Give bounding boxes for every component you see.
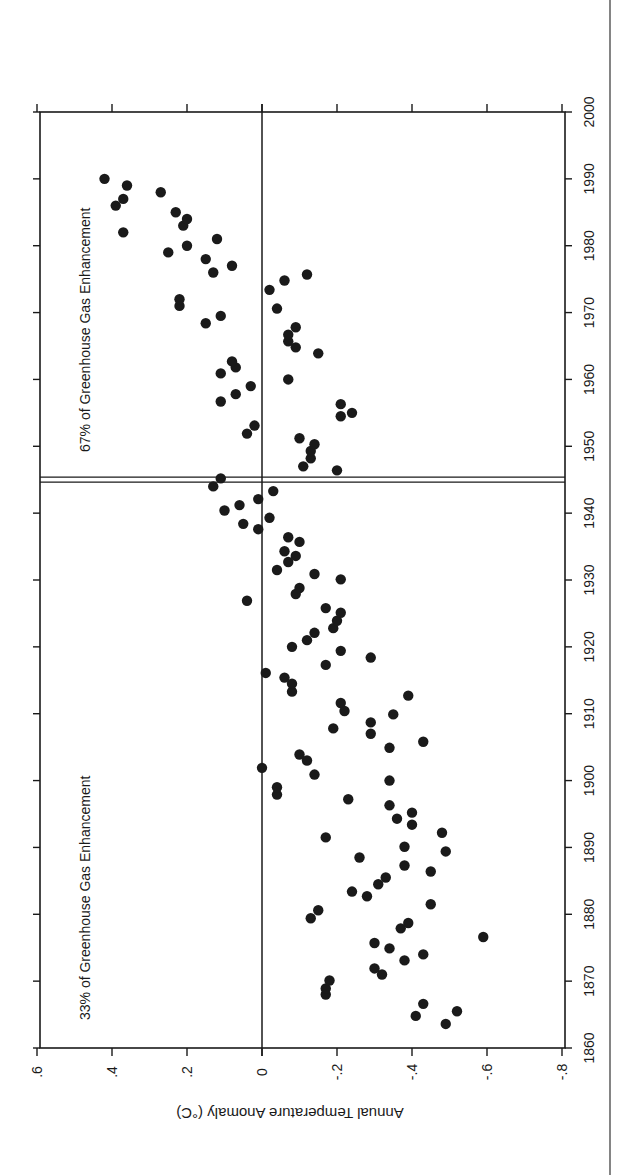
- data-point: [336, 646, 346, 656]
- data-point: [279, 275, 289, 285]
- data-point: [388, 709, 398, 719]
- data-point: [313, 348, 323, 358]
- data-point: [309, 439, 319, 449]
- year-tick-label: 1920: [581, 631, 597, 662]
- data-point: [418, 949, 428, 959]
- temp-tick-label: .4: [104, 1066, 120, 1078]
- data-point: [302, 635, 312, 645]
- data-point: [287, 642, 297, 652]
- data-point: [118, 227, 128, 237]
- data-point: [362, 891, 372, 901]
- temp-tick-label: 0: [254, 1068, 270, 1076]
- data-point: [321, 660, 331, 670]
- data-point: [272, 303, 282, 313]
- data-point: [321, 832, 331, 842]
- data-point: [99, 174, 109, 184]
- data-point: [336, 698, 346, 708]
- year-tick-label: 1900: [581, 765, 597, 796]
- data-point: [332, 465, 342, 475]
- plot-frame: [40, 112, 565, 1048]
- data-point: [294, 537, 304, 547]
- data-point: [182, 241, 192, 251]
- data-point: [283, 329, 293, 339]
- year-tick-label: 1990: [581, 163, 597, 194]
- data-point: [118, 194, 128, 204]
- temp-tick-label: -.4: [404, 1064, 420, 1081]
- year-tick-label: 1890: [581, 832, 597, 863]
- data-point: [208, 481, 218, 491]
- data-point: [279, 672, 289, 682]
- data-point: [321, 603, 331, 613]
- data-point: [231, 389, 241, 399]
- annotation-67-percent: 67% of Greenhouse Gas Enhancement: [77, 208, 93, 452]
- data-point: [437, 828, 447, 838]
- data-point: [249, 420, 259, 430]
- data-point: [216, 368, 226, 378]
- year-tick-label: 1860: [581, 1032, 597, 1063]
- data-point: [441, 1019, 451, 1029]
- data-point: [264, 285, 274, 295]
- data-point: [399, 842, 409, 852]
- year-1945-divider: [40, 477, 565, 482]
- data-point: [309, 569, 319, 579]
- data-point: [253, 524, 263, 534]
- temp-tick-label: .2: [179, 1066, 195, 1078]
- data-point: [384, 943, 394, 953]
- data-point: [227, 261, 237, 271]
- data-point: [336, 574, 346, 584]
- data-point: [268, 486, 278, 496]
- year-tick-label: 1980: [581, 230, 597, 261]
- temp-tick-label: -.8: [554, 1064, 570, 1081]
- data-point: [407, 807, 417, 817]
- data-point: [384, 743, 394, 753]
- data-point: [369, 938, 379, 948]
- y-axis-title: Annual Temperature Anomaly (°C): [176, 1105, 404, 1122]
- data-point: [347, 886, 357, 896]
- year-tick-label: 1960: [581, 364, 597, 395]
- data-point: [309, 628, 319, 638]
- data-point: [216, 473, 226, 483]
- year-tick-label: 1970: [581, 297, 597, 328]
- year-tick-label: 1950: [581, 431, 597, 462]
- data-point: [216, 311, 226, 321]
- data-point: [302, 269, 312, 279]
- data-point: [392, 813, 402, 823]
- data-point: [201, 254, 211, 264]
- data-point: [313, 905, 323, 915]
- year-tick-label: 1880: [581, 899, 597, 930]
- data-point: [216, 396, 226, 406]
- data-points: [99, 174, 488, 1029]
- data-point: [309, 769, 319, 779]
- data-point: [208, 267, 218, 277]
- data-point: [381, 872, 391, 882]
- data-point: [253, 494, 263, 504]
- data-point: [182, 214, 192, 224]
- temp-tick-label: -.2: [329, 1064, 345, 1081]
- data-point: [399, 955, 409, 965]
- data-point: [283, 374, 293, 384]
- data-point: [294, 749, 304, 759]
- year-tick-label: 1940: [581, 497, 597, 528]
- data-point: [478, 932, 488, 942]
- data-point: [257, 763, 267, 773]
- data-point: [336, 411, 346, 421]
- data-point: [324, 975, 334, 985]
- data-point: [291, 322, 301, 332]
- year-tick-label: 1930: [581, 564, 597, 595]
- data-point: [227, 356, 237, 366]
- data-point: [426, 866, 436, 876]
- data-point: [336, 608, 346, 618]
- data-point: [163, 247, 173, 257]
- data-point: [219, 505, 229, 515]
- data-point: [246, 381, 256, 391]
- temp-tick-label: .6: [29, 1066, 45, 1078]
- data-point: [452, 1006, 462, 1016]
- data-point: [399, 860, 409, 870]
- data-point: [384, 800, 394, 810]
- data-point: [347, 408, 357, 418]
- data-point: [238, 519, 248, 529]
- data-point: [369, 963, 379, 973]
- data-point: [264, 513, 274, 523]
- data-point: [298, 461, 308, 471]
- data-point: [234, 500, 244, 510]
